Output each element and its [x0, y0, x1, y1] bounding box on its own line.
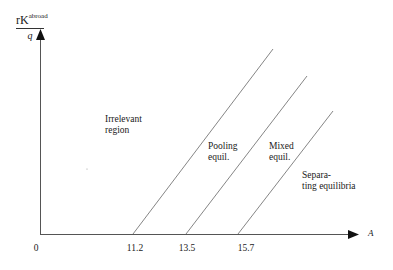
region-label-irrelevant: Irrelevant region	[105, 114, 142, 136]
y-axis-label-numerator: rKabroad	[16, 10, 48, 26]
region-label-line: Pooling	[208, 141, 238, 152]
tick-label-13-5: 13.5	[179, 243, 196, 254]
tick-label-15-7: 15.7	[238, 243, 255, 254]
y-axis-label-denominator: q	[16, 28, 44, 41]
y-axis-label: rKabroad q	[16, 10, 48, 41]
x-axis-arrow-icon	[348, 230, 359, 239]
region-label-line: region	[105, 125, 142, 136]
boundary-line-pooling	[133, 49, 273, 234]
x-axis-label: A	[368, 228, 374, 238]
origin-label: 0	[34, 243, 39, 254]
region-label-pooling: Pooling equil.	[208, 141, 238, 163]
region-label-separating: Separa- ting equilibria	[302, 170, 356, 192]
region-label-line: Separa-	[302, 170, 356, 181]
diagram-canvas	[0, 0, 393, 270]
y-axis-label-superscript: abroad	[29, 12, 48, 20]
region-label-line: ting equilibria	[302, 181, 356, 192]
region-label-line: equil.	[208, 152, 238, 163]
region-label-mixed: Mixed equil.	[269, 141, 294, 163]
tick-label-11-2: 11.2	[127, 243, 143, 254]
region-label-line: Irrelevant	[105, 114, 142, 125]
region-label-line: equil.	[269, 152, 294, 163]
stray-dot	[86, 168, 87, 169]
region-label-line: Mixed	[269, 141, 294, 152]
